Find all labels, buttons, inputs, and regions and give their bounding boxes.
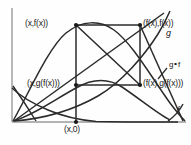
label-point-fx-gfx: (f(x),g(f(x))) xyxy=(143,79,183,88)
label-point-x-gfx: (x,g(f(x))) xyxy=(27,79,60,88)
composition-figure: (x,f(x)) (f(x),f(x)) (x,g(f(x))) (f(x),g… xyxy=(0,0,191,145)
label-curve-gof: g∘f xyxy=(169,60,180,69)
construction-lines xyxy=(76,25,140,122)
diagonal-to-corner xyxy=(76,25,140,85)
label-curve-g: g xyxy=(166,29,171,38)
curve-descending-secondary xyxy=(12,88,178,122)
dot-fx-fx xyxy=(138,23,142,27)
dot-fx-gfx xyxy=(138,83,142,87)
dot-x-fx xyxy=(74,23,78,27)
label-point-x-fx: (x,f(x)) xyxy=(25,19,48,28)
label-point-fx-fx: (f(x),f(x)) xyxy=(143,19,173,28)
label-curve-f: f xyxy=(177,106,179,115)
marked-points xyxy=(74,23,142,124)
label-point-x-0: (x,0) xyxy=(64,125,80,134)
curve-right-hook xyxy=(168,104,183,121)
dot-x-gfx xyxy=(74,83,78,87)
